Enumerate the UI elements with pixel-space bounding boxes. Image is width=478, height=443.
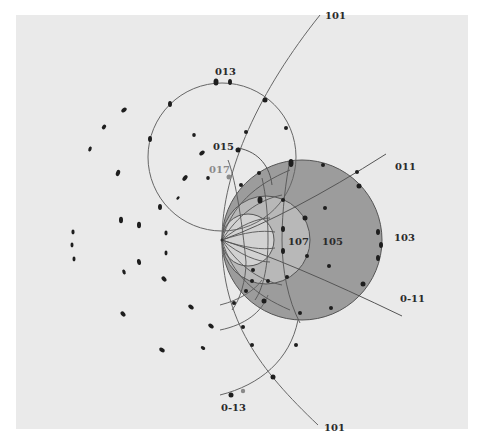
center-vertex bbox=[221, 239, 224, 242]
label-103: 103 bbox=[394, 232, 415, 243]
label-0-13: 0-13 bbox=[221, 402, 246, 413]
label-013: 013 bbox=[215, 66, 236, 77]
label-105: 105 bbox=[322, 236, 343, 247]
label-101-bottom: 101 bbox=[324, 422, 345, 433]
label-011: 011 bbox=[395, 161, 416, 172]
label-015: 015 bbox=[213, 141, 234, 152]
stereographic-projection-diagram: 101 013 015 017 011 103 107 105 0-11 0-1… bbox=[0, 0, 478, 443]
label-101-top: 101 bbox=[325, 10, 346, 21]
label-017: 017 bbox=[209, 164, 230, 175]
label-107: 107 bbox=[288, 236, 309, 247]
label-0-11: 0-11 bbox=[400, 293, 425, 304]
